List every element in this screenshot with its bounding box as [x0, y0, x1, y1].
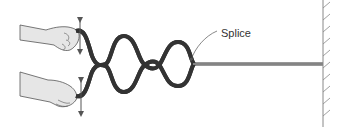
splice-callout: Splice [191, 27, 251, 60]
upper-hand-icon [20, 25, 79, 51]
wall [323, 0, 330, 127]
splice-label: Splice [221, 27, 251, 39]
lower-hand-icon [20, 72, 77, 107]
splice-standing-wave-diagram: Splice [0, 0, 350, 127]
rope-loops [76, 31, 194, 97]
